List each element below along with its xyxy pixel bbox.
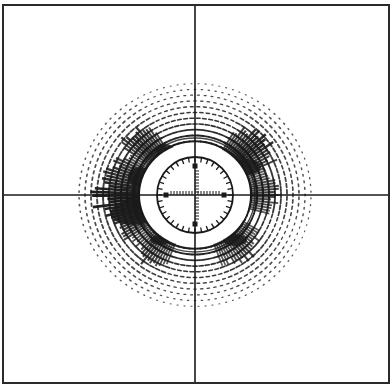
polar-pattern-figure — [0, 0, 392, 384]
figure-canvas — [0, 0, 392, 384]
